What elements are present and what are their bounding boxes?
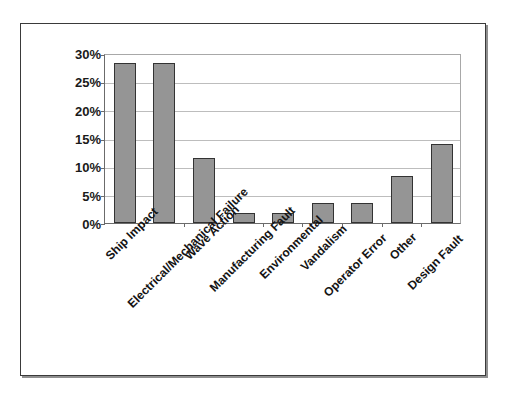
bar-other (391, 176, 413, 223)
y-tick-mark (101, 196, 105, 197)
bar-electrical-mechanical-failure (153, 63, 175, 223)
bar-operator-error (351, 203, 373, 223)
y-axis-tick-label: 20% (31, 104, 101, 117)
y-tick-mark (101, 168, 105, 169)
y-tick-mark (101, 140, 105, 141)
chart-figure-frame: 30% 25% 20% 15% 10% 5% 0% (20, 23, 486, 376)
y-tick-mark (101, 83, 105, 84)
x-axis-labels: Ship Impact Electrical/Mechanical Failur… (104, 226, 484, 366)
y-tick-mark (101, 55, 105, 56)
bar-ship-impact (114, 63, 136, 223)
y-axis-labels: 30% 25% 20% 15% 10% 5% 0% (27, 54, 101, 224)
x-axis-label-other: Other (388, 231, 419, 262)
y-axis-tick-label: 10% (31, 161, 101, 174)
y-tick-mark (101, 224, 105, 225)
y-axis-tick-label: 5% (31, 189, 101, 202)
y-axis-tick-label: 15% (31, 133, 101, 146)
y-axis-tick-label: 25% (31, 76, 101, 89)
bar-design-fault (431, 144, 453, 223)
y-axis-tick-label: 30% (31, 48, 101, 61)
y-axis-tick-label: 0% (31, 218, 101, 231)
y-tick-mark (101, 111, 105, 112)
plot-area (104, 54, 461, 224)
